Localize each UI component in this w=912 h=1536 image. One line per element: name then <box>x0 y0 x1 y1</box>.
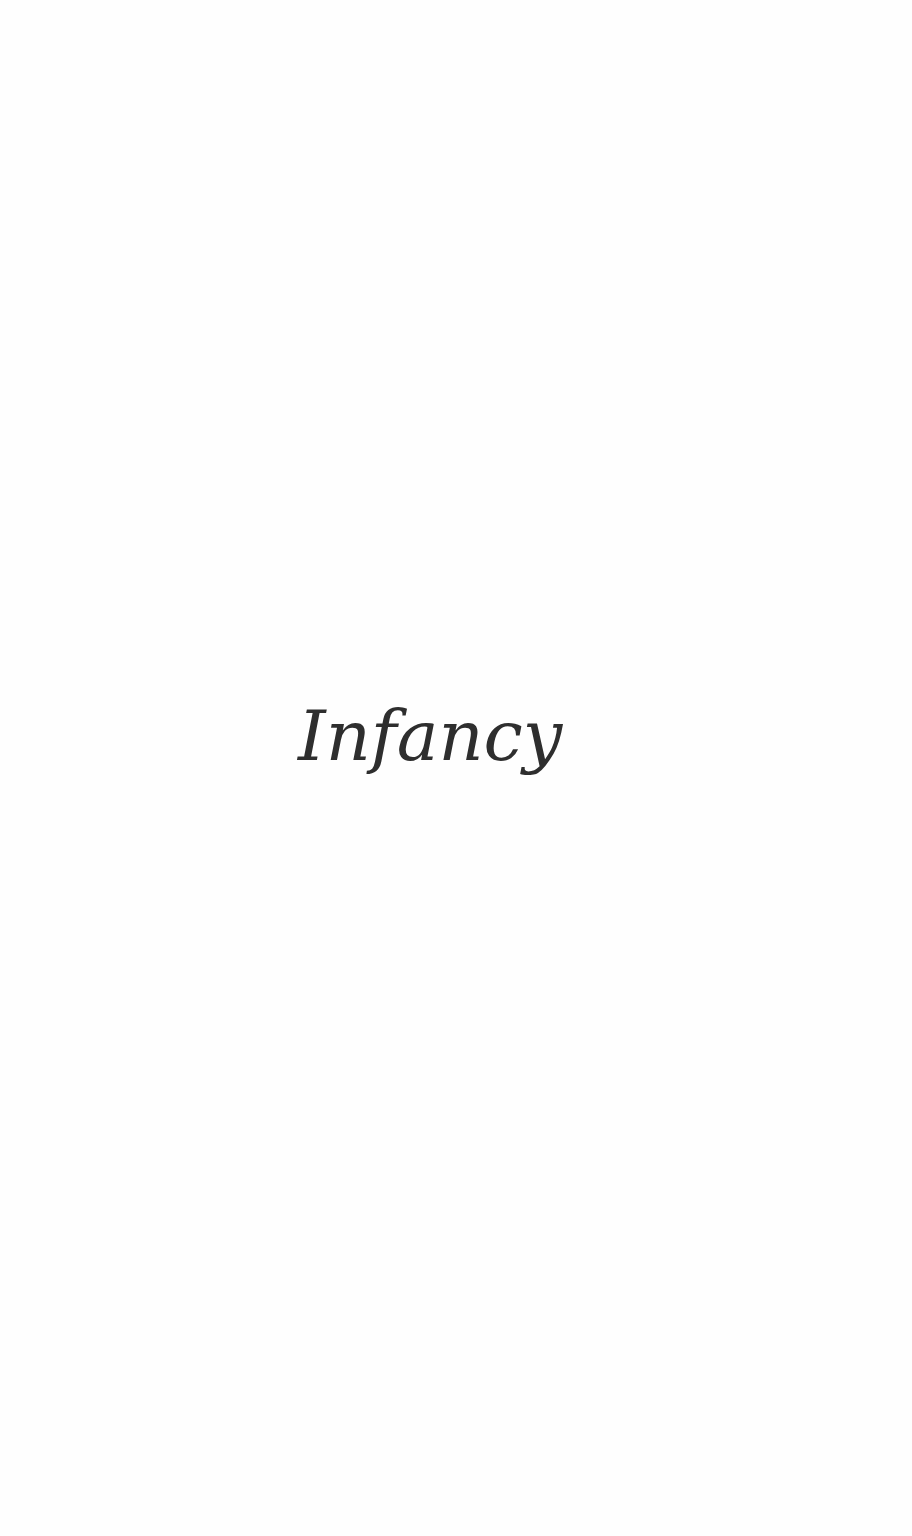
section-title: Infancy <box>298 694 562 778</box>
book-page: Infancy <box>0 0 912 1536</box>
